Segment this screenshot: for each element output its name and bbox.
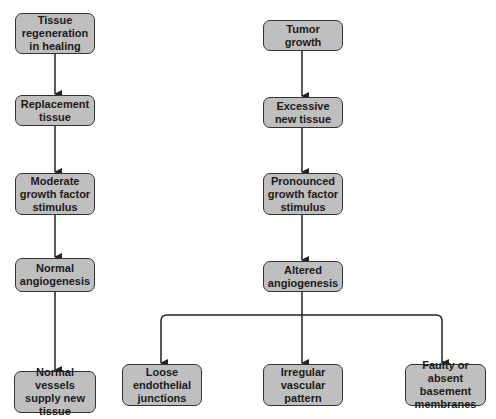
node-label: Loose endothelial junctions: [126, 366, 198, 405]
node-label: Normal vessels supply new tissue: [18, 366, 92, 418]
node-label: Moderate growth factor stimulus: [19, 175, 91, 214]
node-irregular-vascular-pattern: Irregular vascular pattern: [263, 364, 343, 406]
node-label: Excessive new tissue: [267, 100, 339, 126]
node-label: Replacement tissue: [19, 98, 91, 124]
node-label: Normal angiogenesis: [19, 262, 91, 288]
node-tissue-regeneration: Tissue regeneration in healing: [15, 13, 95, 54]
node-label: Faulty or absent basement membranes: [409, 359, 482, 411]
node-excessive-new-tissue: Excessive new tissue: [263, 97, 343, 128]
node-altered-angiogenesis: Altered angiogenesis: [263, 261, 343, 292]
node-loose-endothelial-junctions: Loose endothelial junctions: [122, 364, 202, 406]
node-normal-angiogenesis: Normal angiogenesis: [15, 258, 95, 292]
node-label: Altered angiogenesis: [267, 264, 339, 290]
node-pronounced-growth-factor: Pronounced growth factor stimulus: [263, 173, 343, 215]
node-tumor-growth: Tumor growth: [263, 20, 343, 51]
node-label: Pronounced growth factor stimulus: [267, 175, 339, 214]
arrow-altered-to-loose: [161, 315, 302, 363]
node-replacement-tissue: Replacement tissue: [15, 95, 95, 126]
node-moderate-growth-factor: Moderate growth factor stimulus: [15, 173, 95, 215]
node-normal-vessels: Normal vessels supply new tissue: [14, 371, 96, 413]
node-faulty-basement-membranes: Faulty or absent basement membranes: [405, 364, 486, 406]
node-label: Irregular vascular pattern: [267, 366, 339, 405]
node-label: Tissue regeneration in healing: [19, 14, 91, 53]
arrow-altered-to-faulty: [302, 315, 442, 363]
node-label: Tumor growth: [267, 23, 339, 49]
